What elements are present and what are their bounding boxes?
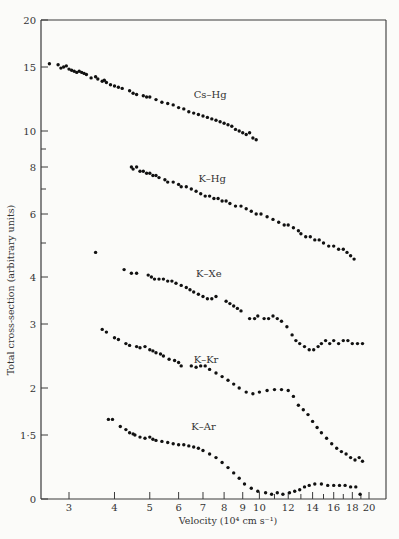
x-tick-label: 7 xyxy=(200,502,206,513)
data-point xyxy=(177,106,180,109)
data-point xyxy=(238,129,241,132)
data-point xyxy=(166,102,169,105)
data-point xyxy=(172,180,175,183)
data-point xyxy=(167,358,170,361)
data-point xyxy=(280,388,283,391)
data-point xyxy=(232,382,235,385)
data-point xyxy=(349,485,352,488)
data-point xyxy=(313,482,316,485)
data-point xyxy=(313,238,316,241)
data-point xyxy=(190,364,193,367)
data-point xyxy=(245,390,248,393)
x-tick-label: 3 xyxy=(66,502,72,513)
data-point xyxy=(232,304,235,307)
data-point xyxy=(241,131,244,134)
data-point xyxy=(135,93,138,96)
data-point xyxy=(325,437,328,440)
y-tick-label: 3 xyxy=(30,319,36,330)
data-point xyxy=(142,94,145,97)
data-point xyxy=(131,92,134,95)
data-point xyxy=(94,251,97,254)
data-point xyxy=(351,342,354,345)
data-point xyxy=(234,128,237,131)
data-point xyxy=(239,309,242,312)
data-point xyxy=(320,482,323,485)
data-point xyxy=(276,491,279,494)
data-point xyxy=(101,328,104,331)
data-point xyxy=(214,371,217,374)
data-point xyxy=(210,117,213,120)
data-point xyxy=(151,349,154,352)
data-point xyxy=(361,460,364,463)
data-point xyxy=(208,194,211,197)
data-point xyxy=(124,342,127,345)
y-tick-label: 8 xyxy=(30,162,36,173)
data-point xyxy=(148,172,151,175)
data-point xyxy=(143,437,146,440)
y-tick-label: 15 xyxy=(23,62,36,73)
data-point xyxy=(322,241,325,244)
x-tick-label: 16 xyxy=(327,502,340,513)
data-point xyxy=(258,390,261,393)
data-point xyxy=(220,375,223,378)
data-point xyxy=(143,345,146,348)
data-point xyxy=(130,272,133,275)
data-point xyxy=(138,170,141,173)
data-point xyxy=(157,277,160,280)
data-point xyxy=(328,342,331,345)
data-point xyxy=(316,345,319,348)
data-point xyxy=(208,368,211,371)
data-point xyxy=(311,420,314,423)
data-point xyxy=(236,307,239,310)
y-tick-label: 1·5 xyxy=(20,430,36,441)
data-point xyxy=(180,185,183,188)
data-point xyxy=(234,204,237,207)
data-point xyxy=(122,268,125,271)
data-point xyxy=(280,320,283,323)
data-point xyxy=(290,333,293,336)
data-point xyxy=(174,282,177,285)
data-point xyxy=(288,491,291,494)
data-point xyxy=(117,86,120,89)
data-point xyxy=(96,77,99,80)
data-point xyxy=(344,452,347,455)
x-tick-label: 18 xyxy=(346,502,359,513)
data-point xyxy=(177,183,180,186)
data-point xyxy=(148,435,151,438)
series-k-hg xyxy=(130,165,356,260)
data-point xyxy=(151,174,154,177)
data-point xyxy=(111,418,114,421)
data-point xyxy=(177,443,180,446)
data-point xyxy=(138,346,141,349)
data-point xyxy=(332,339,335,342)
x-axis: 3456789101214161820 xyxy=(66,492,376,513)
data-point xyxy=(346,339,349,342)
data-point xyxy=(308,484,311,487)
x-tick-label: 14 xyxy=(306,502,319,513)
y-tick-label: 20 xyxy=(23,15,36,26)
data-point xyxy=(337,342,340,345)
data-point xyxy=(239,204,242,207)
data-point xyxy=(187,444,190,447)
data-point xyxy=(105,330,108,333)
data-point xyxy=(343,484,346,487)
y-tick-label: 4 xyxy=(30,272,36,283)
data-point xyxy=(324,339,327,342)
data-point xyxy=(265,215,268,218)
data-point xyxy=(342,339,345,342)
data-point xyxy=(89,76,92,79)
data-point xyxy=(356,342,359,345)
data-point xyxy=(154,174,157,177)
data-point xyxy=(271,314,274,317)
data-point xyxy=(226,466,229,469)
y-tick-label: 6 xyxy=(30,209,36,220)
data-point xyxy=(309,235,312,238)
data-point xyxy=(293,490,296,493)
data-point xyxy=(303,485,306,488)
series-label: K–Ar xyxy=(191,421,216,432)
data-point xyxy=(197,293,200,296)
data-point xyxy=(345,251,348,254)
data-point xyxy=(188,288,191,291)
data-point xyxy=(304,235,307,238)
data-point xyxy=(250,210,253,213)
